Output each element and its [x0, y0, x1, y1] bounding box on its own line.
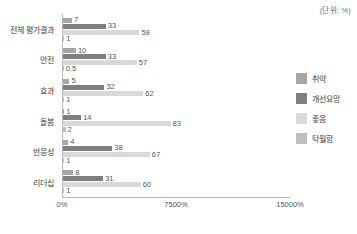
legend-item[interactable]: 개선요망 [296, 93, 340, 104]
x-tick-label: 15000% [276, 200, 304, 209]
bar-row: 67 [63, 152, 290, 157]
bar-group: 114832 [63, 107, 290, 135]
bar [63, 127, 66, 132]
legend-swatch-icon [296, 113, 307, 124]
bar [63, 152, 150, 157]
legend: 취약개선요망좋음탁월함 [296, 73, 340, 144]
bar [63, 158, 64, 163]
legend-label: 개선요망 [312, 93, 340, 104]
bar-row: 57 [63, 60, 290, 65]
bar [63, 91, 143, 96]
bar [63, 115, 81, 120]
category-label: 리더십 [0, 169, 58, 197]
legend-label: 탁월함 [312, 133, 333, 144]
bar-row: 5 [63, 79, 290, 84]
bar [63, 18, 72, 23]
bar-row: 1 [63, 109, 290, 114]
bar [63, 97, 64, 102]
bar-groups: 7335911033570.5532621114832438671831601 [63, 14, 290, 197]
bar-row: 59 [63, 30, 290, 35]
bar [63, 188, 64, 193]
bar-value-label: 1 [66, 35, 70, 43]
bar [63, 170, 73, 175]
legend-item[interactable]: 탁월함 [296, 133, 340, 144]
legend-label: 좋음 [312, 113, 326, 124]
bar [63, 79, 69, 84]
bar-row: 33 [63, 24, 290, 29]
bar-row: 83 [63, 121, 290, 126]
legend-swatch-icon [296, 93, 307, 104]
category-label: 전체 평가결과 [0, 15, 58, 43]
bar-value-label: 1 [66, 157, 70, 165]
x-axis-line [62, 197, 290, 198]
bar [63, 66, 64, 71]
bar [63, 54, 106, 59]
bar-group: 733591 [63, 15, 290, 43]
bar-group: 1033570.5 [63, 46, 290, 74]
category-label: 반응성 [0, 138, 58, 166]
legend-swatch-icon [296, 73, 307, 84]
x-tick-label: 0% [57, 200, 68, 209]
category-axis-labels: 전체 평가결과안전효과돌봄반응성리더십 [0, 14, 58, 198]
bar-row: 0.5 [63, 66, 290, 71]
bar-row: 2 [63, 127, 290, 132]
category-label: 효과 [0, 77, 58, 105]
bar-value-label: 0.5 [66, 65, 76, 73]
bar-group: 438671 [63, 137, 290, 165]
bar-group: 532621 [63, 76, 290, 104]
bar-row: 10 [63, 48, 290, 53]
bar-row: 62 [63, 91, 290, 96]
unit-annotation: (단위: %) [320, 4, 351, 15]
legend-swatch-icon [296, 133, 307, 144]
bar-row: 4 [63, 140, 290, 145]
grouped-bar-chart: (단위: %) 전체 평가결과안전효과돌봄반응성리더십 733591103357… [0, 0, 357, 234]
x-tick-label: 7500% [164, 200, 187, 209]
bar [63, 140, 68, 145]
legend-item[interactable]: 좋음 [296, 113, 340, 124]
bar-value-label: 1 [66, 96, 70, 104]
bar [63, 121, 171, 126]
bar [63, 85, 104, 90]
bar-row: 38 [63, 146, 290, 151]
bar-row: 60 [63, 182, 290, 187]
category-label: 안전 [0, 46, 58, 74]
bar-row: 33 [63, 54, 290, 59]
bar [63, 24, 106, 29]
bar [63, 30, 139, 35]
bar [63, 176, 103, 181]
bar [63, 182, 141, 187]
bar-row: 8 [63, 170, 290, 175]
bar-group: 831601 [63, 168, 290, 196]
category-label: 돌봄 [0, 107, 58, 135]
bar-row: 1 [63, 97, 290, 102]
bar-row: 1 [63, 158, 290, 163]
bar-row: 31 [63, 176, 290, 181]
bar-row: 1 [63, 188, 290, 193]
legend-item[interactable]: 취약 [296, 73, 340, 84]
legend-label: 취약 [312, 73, 326, 84]
bar-row: 7 [63, 18, 290, 23]
bar-row: 1 [63, 36, 290, 41]
bar [63, 109, 64, 114]
plot-area: 7335911033570.5532621114832438671831601 [62, 14, 290, 198]
x-axis-ticks: 0%7500%15000% [62, 200, 290, 214]
bar [63, 48, 76, 53]
bar-row: 32 [63, 85, 290, 90]
bar [63, 36, 64, 41]
bar [63, 146, 112, 151]
bar-value-label: 2 [68, 126, 72, 134]
bar-value-label: 1 [66, 187, 70, 195]
